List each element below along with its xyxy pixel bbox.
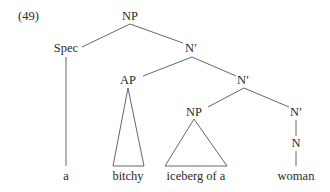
leaf-woman: woman [278,169,315,183]
branch-nbar1-nbar2 [192,57,236,76]
example-number: (49) [18,9,39,23]
node-np-inner: NP [186,105,202,119]
tree-branches [0,0,330,192]
node-np-root: NP [122,9,138,23]
branch-np-spec [82,24,130,47]
triangle-inner-np [165,119,227,166]
leaf-iceberg-of-a: iceberg of a [167,169,226,183]
node-n: N [291,136,300,150]
leaf-bitchy: bitchy [112,169,143,183]
node-nbar-1: N′ [185,41,197,55]
node-ap: AP [120,73,136,87]
node-nbar-2: N′ [237,73,249,87]
branch-nbar1-ap [143,57,192,76]
branch-np-nbar1 [130,24,183,43]
node-spec: Spec [54,41,78,55]
leaf-a: a [63,169,69,183]
node-nbar-3: N′ [290,105,302,119]
branch-nbar2-nbar3 [244,88,289,107]
triangle-ap [113,88,144,166]
branch-nbar2-np [208,88,244,107]
